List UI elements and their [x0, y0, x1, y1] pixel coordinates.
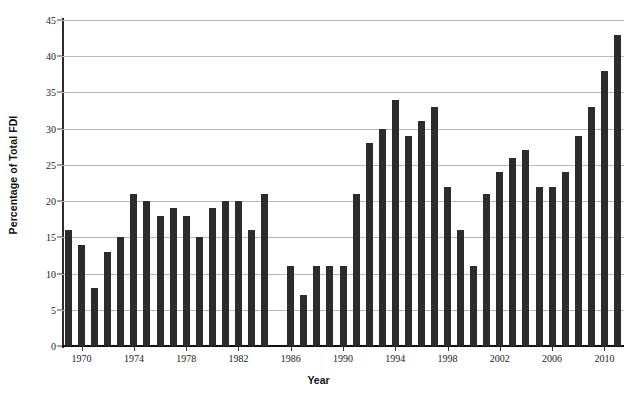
bar	[418, 121, 425, 346]
bar	[483, 194, 490, 346]
bar	[65, 230, 72, 346]
bar	[326, 266, 333, 346]
x-tick-mark	[291, 346, 292, 351]
x-tick-label: 1994	[385, 353, 405, 364]
bar	[509, 158, 516, 346]
y-axis-title-text: Percentage of Total FDI	[7, 116, 19, 235]
bar	[104, 252, 111, 346]
x-tick-label: 2010	[594, 353, 614, 364]
bar	[614, 35, 621, 347]
y-tick-label: 15	[46, 232, 56, 243]
x-tick-label: 1998	[438, 353, 458, 364]
bar	[562, 172, 569, 346]
bar	[157, 216, 164, 346]
bar	[444, 187, 451, 346]
y-tick-label: 20	[46, 196, 56, 207]
bar	[588, 107, 595, 346]
bar	[366, 143, 373, 346]
bar	[183, 216, 190, 346]
bar	[470, 266, 477, 346]
bar	[405, 136, 412, 346]
x-tick-mark	[238, 346, 239, 351]
bar	[313, 266, 320, 346]
x-tick-label: 2002	[490, 353, 510, 364]
bar	[170, 208, 177, 346]
x-tick-label: 2006	[542, 353, 562, 364]
bar	[235, 201, 242, 346]
fdi-bar-chart: Percentage of Total FDI 0510152025303540…	[0, 0, 637, 404]
bar	[522, 150, 529, 346]
y-tick-label: 5	[51, 304, 56, 315]
bar	[209, 208, 216, 346]
bar-series	[62, 20, 624, 346]
bar	[549, 187, 556, 346]
bar	[248, 230, 255, 346]
y-tick-label: 40	[46, 51, 56, 62]
bar	[287, 266, 294, 346]
y-tick-label: 30	[46, 123, 56, 134]
x-tick-mark	[186, 346, 187, 351]
bar	[353, 194, 360, 346]
bar	[300, 295, 307, 346]
x-axis-title: Year	[0, 374, 637, 386]
bar	[392, 100, 399, 346]
bar	[496, 172, 503, 346]
bar	[379, 129, 386, 346]
bar	[601, 71, 608, 346]
x-tick-label: 1990	[333, 353, 353, 364]
x-tick-label: 1970	[72, 353, 92, 364]
y-tick-label: 35	[46, 87, 56, 98]
bar	[130, 194, 137, 346]
x-tick-mark	[552, 346, 553, 351]
y-tick-label: 10	[46, 268, 56, 279]
y-axis-title: Percentage of Total FDI	[0, 0, 26, 350]
x-tick-label: 1986	[281, 353, 301, 364]
bar	[222, 201, 229, 346]
x-tick-label: 1974	[124, 353, 144, 364]
y-tick-label: 25	[46, 159, 56, 170]
bar	[575, 136, 582, 346]
y-tick-label: 45	[46, 15, 56, 26]
x-tick-mark	[82, 346, 83, 351]
x-tick-mark	[343, 346, 344, 351]
bar	[117, 237, 124, 346]
x-tick-label: 1978	[176, 353, 196, 364]
x-tick-mark	[395, 346, 396, 351]
bar	[261, 194, 268, 346]
x-tick-mark	[448, 346, 449, 351]
bar	[143, 201, 150, 346]
bar	[78, 245, 85, 346]
y-tick-label: 0	[51, 341, 56, 352]
bar	[196, 237, 203, 346]
x-tick-mark	[500, 346, 501, 351]
x-tick-mark	[604, 346, 605, 351]
bar	[536, 187, 543, 346]
plot-area: 051015202530354045	[62, 20, 624, 346]
bar	[91, 288, 98, 346]
bar	[431, 107, 438, 346]
bar	[457, 230, 464, 346]
x-tick-mark	[134, 346, 135, 351]
x-tick-label: 1982	[228, 353, 248, 364]
bar	[340, 266, 347, 346]
